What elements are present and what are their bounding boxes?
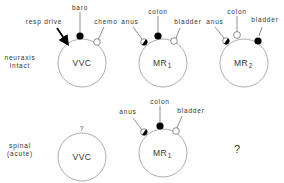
diagram-canvas: neuraxis intact spinal (acute) VVC resp … (0, 0, 284, 183)
svg-text:anus: anus (119, 108, 136, 115)
bladder-filled-circle-icon (254, 37, 261, 44)
row-label-intact-2: intact (10, 62, 30, 69)
colon-filled-circle-icon (154, 32, 161, 39)
bottom-mr2-unknown: ? (234, 143, 240, 155)
bladder-open-circle-icon (171, 38, 178, 45)
row-label-intact-1: neuraxis (5, 54, 36, 61)
top-mr2-node: MR 2 anus colon bladder (206, 8, 278, 87)
svg-text:anus: anus (121, 18, 138, 25)
row-label-spinal-2: (acute) (7, 150, 33, 158)
svg-text:chemo: chemo (94, 18, 118, 25)
bladder-open-circle-icon (173, 128, 180, 135)
svg-text:resp drive: resp drive (26, 18, 63, 26)
colon-open-circle-icon (234, 32, 241, 39)
top-mr1-node: MR 1 anus colon bladder (121, 8, 201, 87)
svg-text:colon: colon (148, 8, 168, 15)
svg-text:1: 1 (168, 62, 172, 69)
resp-drive-arrow-icon (57, 28, 67, 43)
svg-text:bladder: bladder (177, 107, 204, 114)
baro-filled-circle-icon (76, 32, 83, 39)
svg-text:bladder: bladder (251, 16, 278, 23)
chemo-open-circle-icon (94, 39, 101, 46)
bottom-mr1-node: MR 1 anus colon bladder (119, 98, 204, 177)
top-vvc-node: VVC resp drive baro chemo (26, 4, 118, 87)
colon-filled-circle-icon (156, 122, 163, 129)
svg-text:VVC: VVC (73, 58, 92, 68)
svg-text:MR: MR (234, 58, 248, 68)
svg-text:bladder: bladder (174, 18, 201, 25)
svg-text:1: 1 (168, 152, 172, 159)
svg-text:2: 2 (249, 62, 253, 69)
svg-text:colon: colon (227, 8, 247, 15)
svg-text:colon: colon (150, 98, 170, 105)
svg-text:VVC: VVC (73, 152, 92, 162)
svg-text:baro: baro (72, 4, 88, 11)
bottom-vvc-node: VVC ? (58, 125, 106, 181)
svg-text:MR: MR (153, 58, 167, 68)
row-label-spinal-1: spinal (9, 142, 31, 150)
svg-text:MR: MR (153, 148, 167, 158)
svg-text:anus: anus (206, 18, 223, 25)
unknown-marker: ? (80, 125, 84, 132)
